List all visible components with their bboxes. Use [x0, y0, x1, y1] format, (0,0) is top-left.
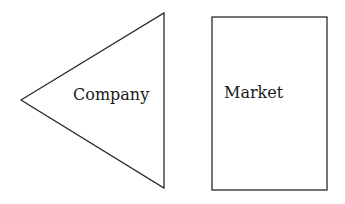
company-label: Company: [73, 85, 149, 104]
market-rectangle: [212, 17, 327, 190]
market-label: Market: [224, 83, 284, 102]
diagram-canvas: Company Market: [0, 0, 345, 204]
